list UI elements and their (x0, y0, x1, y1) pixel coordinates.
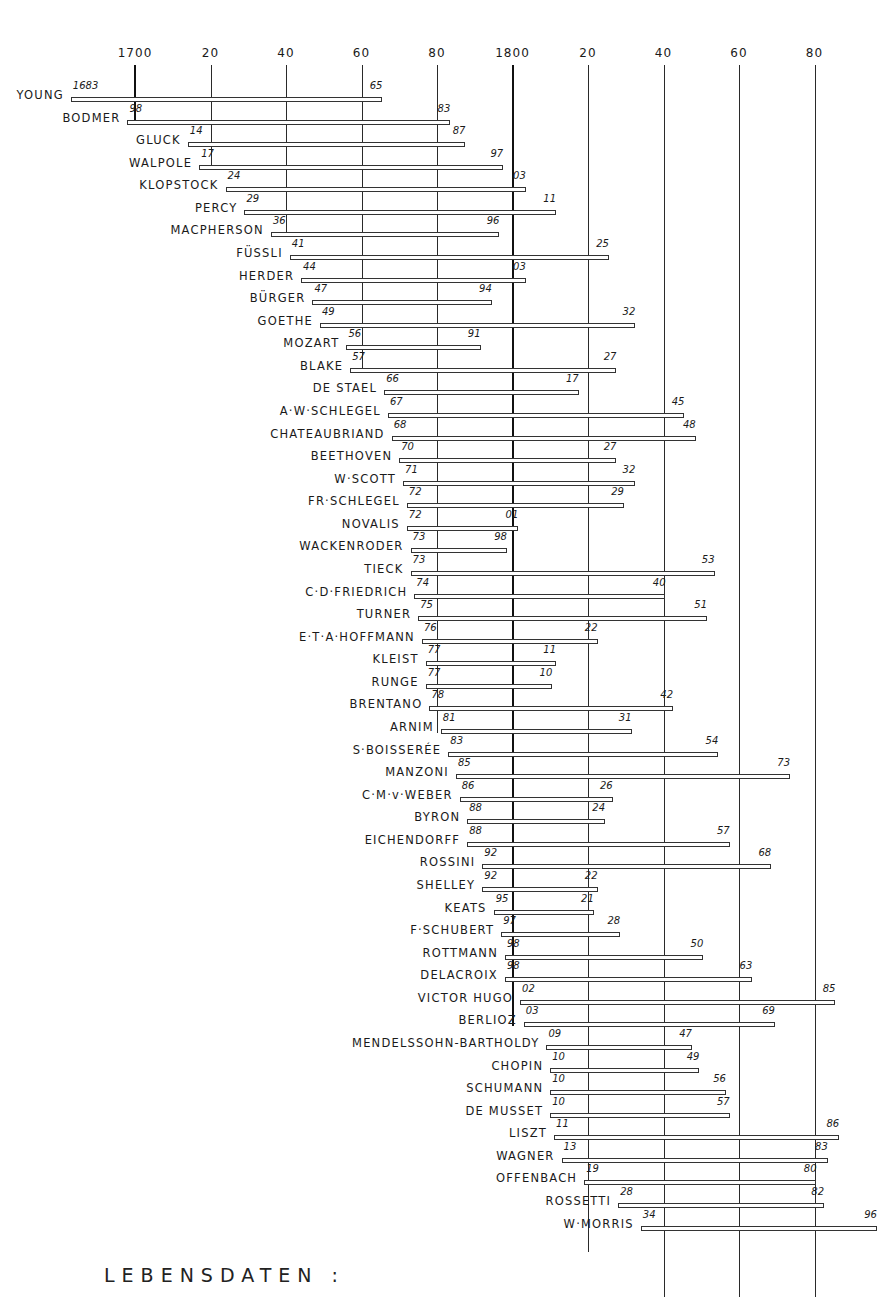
death-year-label: 11 (543, 644, 556, 655)
death-year-label: 83 (815, 1141, 828, 1152)
death-year-label: 25 (596, 238, 609, 249)
death-year-label: 91 (468, 328, 481, 339)
birth-year-label: 95 (496, 893, 509, 904)
lifespan-bar (403, 481, 635, 486)
death-year-label: 17 (566, 373, 579, 384)
lifespan-bar (71, 97, 383, 102)
person-name: TIECK (364, 562, 403, 576)
lifespan-bar (407, 526, 518, 531)
lifespan-bar (384, 390, 579, 395)
death-year-label: 57 (717, 1096, 730, 1107)
death-year-label: 51 (694, 599, 707, 610)
lifespan-bar (418, 616, 707, 621)
lifespan-bar (320, 323, 635, 328)
person-name: KLOPSTOCK (139, 178, 218, 192)
birth-year-label: 67 (390, 396, 403, 407)
person-name: S·BOISSERÉE (353, 743, 442, 757)
person-name: SHELLEY (417, 878, 476, 892)
birth-year-label: 76 (424, 622, 437, 633)
lifespan-bar (127, 120, 450, 125)
birth-year-label: 10 (552, 1096, 565, 1107)
birth-year-label: 13 (564, 1141, 577, 1152)
axis-tick-label: 1700 (118, 46, 153, 60)
lifespan-bar (188, 142, 466, 147)
lifespan-bar (501, 932, 620, 937)
death-year-label: 40 (653, 577, 666, 588)
lifespan-bar (562, 1158, 828, 1163)
birth-year-label: 03 (526, 1005, 539, 1016)
death-year-label: 32 (623, 306, 636, 317)
death-year-label: 28 (607, 915, 620, 926)
death-year-label: 86 (826, 1118, 839, 1129)
birth-year-label: 75 (420, 599, 433, 610)
lifespan-bar (271, 232, 500, 237)
lifespan-bar (392, 436, 696, 441)
person-name: F·SCHUBERT (410, 923, 494, 937)
death-year-label: 24 (592, 802, 605, 813)
birth-year-label: 86 (462, 780, 475, 791)
axis-tick-label: 20 (202, 46, 219, 60)
gridline (588, 65, 589, 1252)
death-year-label: 53 (702, 554, 715, 565)
birth-year-label: 29 (246, 193, 259, 204)
birth-year-label: 28 (620, 1186, 633, 1197)
axis-tick-label: 80 (806, 46, 823, 60)
person-name: WALPOLE (129, 156, 192, 170)
person-name: SCHUMANN (466, 1081, 543, 1095)
person-name: FR·SCHLEGEL (308, 494, 400, 508)
lifespan-bar (524, 1022, 775, 1027)
death-year-label: 27 (604, 441, 617, 452)
lifespan-bar (350, 368, 616, 373)
birth-year-label: 44 (303, 261, 316, 272)
death-year-label: 29 (611, 486, 624, 497)
lifespan-bar (399, 458, 616, 463)
birth-year-label: 98 (507, 960, 520, 971)
person-name: A·W·SCHLEGEL (280, 404, 381, 418)
birth-year-label: 11 (556, 1118, 569, 1129)
axis-tick-label: 40 (655, 46, 672, 60)
death-year-label: 47 (679, 1028, 692, 1039)
birth-year-label: 47 (314, 283, 327, 294)
birth-year-label: 19 (586, 1163, 599, 1174)
person-name: E·T·A·HOFFMANN (299, 630, 415, 644)
lifespan-bar (550, 1113, 729, 1118)
death-year-label: 03 (513, 170, 526, 181)
lifespan-bar (482, 864, 771, 869)
death-year-label: 45 (672, 396, 685, 407)
birth-year-label: 41 (292, 238, 305, 249)
birth-year-label: 92 (484, 870, 497, 881)
lifespan-timeline-chart: 170020406080180020406080 YOUNG168365BODM… (0, 0, 877, 1313)
birth-year-label: 1683 (73, 80, 98, 91)
person-name: RUNGE (371, 675, 418, 689)
person-name: GOETHE (258, 314, 313, 328)
person-name: DE STAEL (313, 381, 377, 395)
lifespan-bar (550, 1068, 699, 1073)
person-name: TURNER (357, 607, 412, 621)
lifespan-bar (426, 684, 553, 689)
birth-year-label: 78 (431, 689, 444, 700)
lifespan-bar (482, 887, 597, 892)
lifespan-bar (244, 210, 556, 215)
birth-year-label: 10 (552, 1073, 565, 1084)
person-name: FÜSSLI (236, 246, 283, 260)
death-year-label: 97 (490, 148, 503, 159)
person-name: W·MORRIS (564, 1217, 634, 1231)
lifespan-bar (550, 1090, 726, 1095)
death-year-label: 31 (619, 712, 632, 723)
death-year-label: 27 (604, 351, 617, 362)
birth-year-label: 57 (352, 351, 365, 362)
death-year-label: 49 (687, 1051, 700, 1062)
birth-year-label: 72 (409, 486, 422, 497)
birth-year-label: 85 (458, 757, 471, 768)
birth-year-label: 02 (522, 983, 535, 994)
person-name: KLEIST (373, 652, 419, 666)
death-year-label: 94 (479, 283, 492, 294)
birth-year-label: 81 (443, 712, 456, 723)
lifespan-bar (505, 977, 752, 982)
person-name: ROSSETTI (545, 1194, 611, 1208)
death-year-label: 68 (758, 847, 771, 858)
death-year-label: 98 (494, 531, 507, 542)
lifespan-bar (422, 639, 598, 644)
lifespan-bar (618, 1203, 824, 1208)
death-year-label: 50 (691, 938, 704, 949)
